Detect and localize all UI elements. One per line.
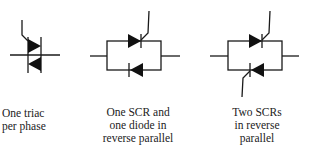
caption-line: One SCR and <box>94 106 182 119</box>
caption-line: parallel <box>222 132 292 145</box>
scr2-gate <box>242 71 250 97</box>
caption-line: in reverse <box>222 119 292 132</box>
triac-symbol <box>10 20 60 73</box>
two-scrs-caption: Two SCRs in reverse parallel <box>222 106 292 145</box>
scr1-triangle <box>249 34 262 48</box>
triac-forward-triangle <box>28 39 41 53</box>
scr-diode-caption: One SCR and one diode in reverse paralle… <box>94 106 182 145</box>
caption-line: per phase <box>2 120 68 133</box>
caption-line: Two SCRs <box>222 106 292 119</box>
scr-diode-loop <box>107 41 161 70</box>
scr2-triangle <box>251 63 264 77</box>
scr1-gate <box>262 11 270 40</box>
two-scrs-symbol <box>210 11 299 97</box>
scr-triangle <box>128 34 141 48</box>
triac-reverse-triangle <box>28 57 41 71</box>
triac-gate <box>22 20 28 41</box>
scr-gate <box>141 11 149 40</box>
two-scrs-loop <box>228 41 282 70</box>
diode-triangle <box>130 63 143 77</box>
caption-line: one diode in <box>94 119 182 132</box>
scr-diode-symbol <box>90 11 180 77</box>
triac-caption: One triac per phase <box>2 107 68 133</box>
caption-line: reverse parallel <box>94 132 182 145</box>
caption-line: One triac <box>2 107 68 120</box>
